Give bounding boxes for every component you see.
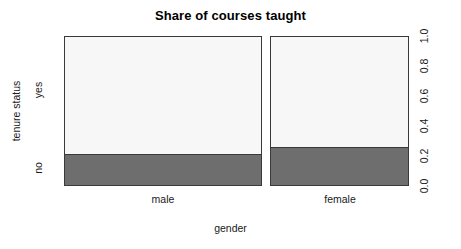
right-tick-label-0: 0.0 <box>418 179 430 194</box>
y-axis-title: tenure status <box>10 81 22 142</box>
y-tick-label-no: no <box>32 162 44 174</box>
right-tick-label-5: 1.0 <box>418 29 430 44</box>
right-tick-label-1: 0.2 <box>418 149 430 164</box>
spineplot-figure: Share of courses taught yes no tenure st… <box>0 0 461 249</box>
page-title: Share of courses taught <box>0 8 461 23</box>
bar-female-segment-yes <box>271 37 408 147</box>
y-tick-label-yes: yes <box>32 82 44 98</box>
x-axis-title: gender <box>0 222 461 234</box>
bar-male-segment-yes <box>65 37 261 154</box>
bar-female-segment-no <box>271 147 408 185</box>
bar-male[interactable] <box>64 36 262 186</box>
bar-female[interactable] <box>270 36 409 186</box>
right-tick-label-2: 0.4 <box>418 119 430 134</box>
right-tick-label-3: 0.6 <box>418 89 430 104</box>
plot-panel <box>64 36 409 186</box>
x-tick-label-female: female <box>324 193 356 205</box>
right-tick-label-4: 0.8 <box>418 59 430 74</box>
bar-male-segment-no <box>65 154 261 185</box>
x-tick-label-male: male <box>152 193 175 205</box>
